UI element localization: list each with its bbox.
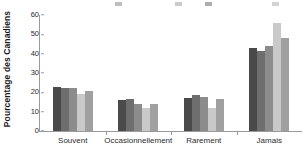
legend-entry [115,2,124,6]
bar [208,108,216,131]
x-axis-tick-mark [237,131,238,135]
y-axis-tick-label: 60 [31,11,39,19]
y-axis-tick: 10 [31,108,40,116]
bar [61,88,69,132]
y-axis-tick-label: 20 [31,89,39,97]
y-axis-tick-label: 50 [31,31,39,39]
y-axis-tick-mark [41,53,44,54]
y-axis-tick-mark [41,73,44,74]
x-axis-tick-mark [106,131,107,135]
y-axis-tick-mark [41,131,44,132]
y-axis-tick-label: 40 [31,50,39,58]
y-axis-tick-mark [41,15,44,16]
chart-legend-clipped [0,0,306,6]
bar [69,88,77,131]
bar [53,87,61,131]
bar-group [249,15,289,131]
bar [249,48,257,131]
legend-swatch [175,2,182,6]
bar [150,104,158,131]
bar [77,94,85,131]
y-axis-tick-label: 0 [35,127,39,135]
y-axis-tick: 40 [31,50,40,58]
bar [265,46,273,131]
y-axis-tick-mark [41,92,44,93]
bar [200,97,208,131]
legend-entry [205,2,214,6]
y-axis-tick: 30 [31,69,40,77]
bar [281,38,289,131]
bar [192,95,200,131]
x-axis-label: Souvent [58,137,87,145]
y-axis-tick-mark [41,34,44,35]
bar [118,100,126,131]
bar [134,104,142,131]
bar-chart: Pourcentage des Canadiens 0102030405060 … [0,0,306,150]
bar-group [118,15,158,131]
bar [216,99,224,131]
x-axis-label: Occasionnellement [104,137,172,145]
y-axis-tick: 0 [35,127,40,135]
legend-entry [272,2,281,6]
bar [273,23,281,131]
bar-group [184,15,224,131]
x-axis-label: Jamais [257,137,282,145]
bar [126,99,134,131]
y-axis-tick: 50 [31,31,40,39]
legend-swatch [205,2,212,6]
y-axis-tick-mark [41,111,44,112]
legend-entry [175,2,184,6]
bar [184,98,192,131]
bar [257,51,265,131]
bar [142,108,150,131]
legend-swatch [272,2,279,6]
bar [85,91,93,131]
y-axis-title: Pourcentage des Canadiens [0,0,14,138]
legend-swatch [115,2,122,6]
x-axis-tick-mark [171,131,172,135]
bar-group [53,15,93,131]
y-axis-tick: 60 [31,11,40,19]
y-axis-tick: 20 [31,89,40,97]
y-axis-title-text: Pourcentage des Canadiens [2,11,12,127]
x-axis-label: Rarement [186,137,221,145]
y-axis-tick-label: 10 [31,108,39,116]
plot-area: 0102030405060 [40,15,302,131]
y-axis-tick-label: 30 [31,69,39,77]
